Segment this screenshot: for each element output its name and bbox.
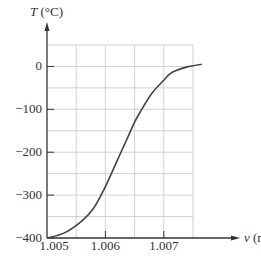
x-axis-label: v (mV) <box>244 230 261 245</box>
y-axis-arrow-icon <box>45 22 50 31</box>
x-tick-label: 1.005 <box>39 238 68 253</box>
temperature-voltage-chart: 0−100−200−300−4001.0051.0061.007 T (°C) … <box>0 0 261 263</box>
y-tick-label: −300 <box>15 187 42 202</box>
y-tick-label: −400 <box>15 230 42 245</box>
axes <box>45 22 241 241</box>
data-curve <box>47 64 202 238</box>
y-tick-label: −200 <box>15 144 42 159</box>
y-tick-label: −100 <box>15 101 42 116</box>
x-tick-label: 1.007 <box>149 238 179 253</box>
x-tick-label: 1.006 <box>91 238 121 253</box>
x-axis-arrow-icon <box>231 236 240 241</box>
y-axis-label: T (°C) <box>30 4 63 19</box>
y-tick-label: 0 <box>36 58 43 73</box>
